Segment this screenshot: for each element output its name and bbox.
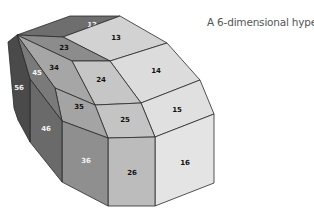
face-26: 26 (108, 137, 155, 206)
face-label: 13 (111, 34, 121, 42)
face-label: 24 (96, 76, 106, 84)
face-label: 45 (32, 69, 42, 77)
figure-title: A 6-dimensional hyperbox (207, 16, 314, 28)
face-label: 36 (81, 157, 91, 165)
hyperbox-figure: 121323142434152535162636454656 (0, 0, 314, 220)
hyperbox-projection-diagram: 121323142434152535162636454656 (0, 0, 314, 220)
face-label: 14 (151, 67, 161, 75)
face-label: 34 (49, 64, 59, 72)
face-label: 23 (59, 44, 69, 52)
face-label: 26 (127, 169, 137, 177)
face-label: 16 (180, 159, 190, 167)
face-label: 35 (74, 103, 84, 111)
face-label: 46 (41, 125, 51, 133)
face-label: 56 (14, 84, 24, 92)
face-label: 15 (172, 106, 182, 114)
face-label: 25 (120, 116, 130, 124)
